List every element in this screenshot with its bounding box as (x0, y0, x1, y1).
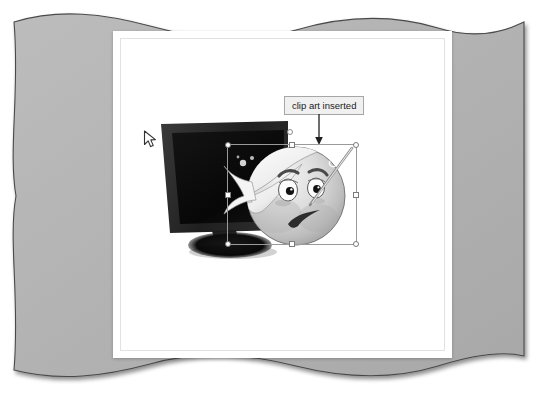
callout-text: clip art inserted (292, 101, 356, 111)
selection-handle-top-left[interactable] (225, 142, 231, 148)
clip-art-selection-frame[interactable] (227, 144, 357, 245)
selection-handle-top-middle[interactable] (289, 142, 295, 148)
callout-label: clip art inserted (284, 96, 364, 115)
selection-handle-top-right[interactable] (353, 142, 359, 148)
screenshot-stage: clip art inserted (0, 0, 537, 401)
selection-handle-bottom-middle[interactable] (289, 241, 295, 247)
selection-handle-middle-left[interactable] (225, 192, 231, 198)
mouse-pointer-icon (143, 130, 157, 148)
selection-handle-bottom-left[interactable] (225, 241, 231, 247)
callout-arrow-icon (313, 114, 325, 146)
selection-handle-middle-right[interactable] (353, 192, 359, 198)
selection-handle-bottom-right[interactable] (353, 241, 359, 247)
selection-handle-rotate[interactable] (287, 129, 293, 135)
